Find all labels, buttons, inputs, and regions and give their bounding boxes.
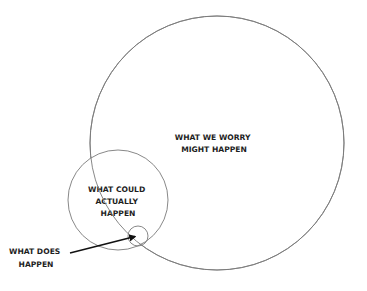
worry-label-line-2: MIGHT HAPPEN xyxy=(181,145,247,154)
worry-label: WHAT WE WORRY MIGHT HAPPEN xyxy=(175,133,253,154)
worry-diagram: WHAT WE WORRY MIGHT HAPPEN WHAT COULD AC… xyxy=(0,0,367,291)
does-label-line-1: WHAT DOES xyxy=(9,247,60,256)
does-label: WHAT DOES HAPPEN xyxy=(9,247,63,269)
could-label-line-3: HAPPEN xyxy=(101,209,136,218)
could-circle-group: WHAT COULD ACTUALLY HAPPEN xyxy=(68,150,168,250)
does-label-line-2: HAPPEN xyxy=(19,260,54,269)
worry-label-line-1: WHAT WE WORRY xyxy=(175,133,251,142)
could-label-line-2: ACTUALLY xyxy=(95,197,138,206)
could-label-line-1: WHAT COULD xyxy=(88,185,145,194)
